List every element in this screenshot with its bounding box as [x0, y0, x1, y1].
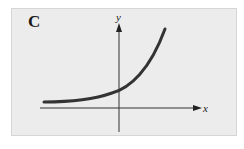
y-axis-arrow-icon [116, 23, 122, 32]
exponential-chart: x y [0, 0, 244, 149]
y-axis-label: y [115, 11, 121, 23]
exponential-curve [44, 29, 165, 102]
x-axis-label: x [202, 102, 208, 114]
x-axis-arrow-icon [193, 105, 202, 111]
